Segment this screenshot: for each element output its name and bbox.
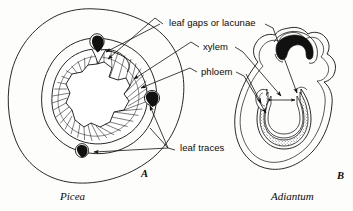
adiantum-panel [235,27,336,169]
label-phloem: phloem [201,67,232,77]
caption-adiantum: Adiantum [271,190,314,202]
adiantum-stele-right-arm-top [297,87,307,90]
leader-phloem-left-tick [190,68,197,72]
leader-phloem-to-picea [141,68,190,88]
leader-leafgaps-left-tick [155,18,163,24]
leader-leafgaps-to-picea-2 [106,24,160,52]
adiantum-xylem [265,96,303,138]
leader-xylem-left-tick [191,42,199,47]
picea-panel [8,9,184,183]
label-leaf-traces: leaf traces [180,143,224,153]
leader-leafgaps-right-tick [265,24,273,28]
label-leaf-gaps-or-lacunae: leaf gaps or lacunae [169,18,256,28]
leader-phloem-right-tick [236,72,244,76]
panel-letter-a: A [141,168,148,179]
leader-xylem-right-tick [235,47,243,52]
leader-leaftraces-to-bottom-trace [94,148,168,152]
leader-leaftraces-v-closure [150,128,168,148]
figure-container: leaf gaps or lacunae xylem phloem leaf t… [0,0,353,211]
caption-picea: Picea [60,190,85,202]
adiantum-stele-left-lobe [256,89,266,110]
leader-leaftraces-to-right-trace [150,106,168,148]
picea-leaf-trace-bottom [75,144,88,158]
leader-leaftraces-tick [168,148,175,150]
anatomy-diagram-svg [0,0,353,211]
panel-letter-b: B [337,170,344,181]
label-xylem: xylem [203,42,228,52]
